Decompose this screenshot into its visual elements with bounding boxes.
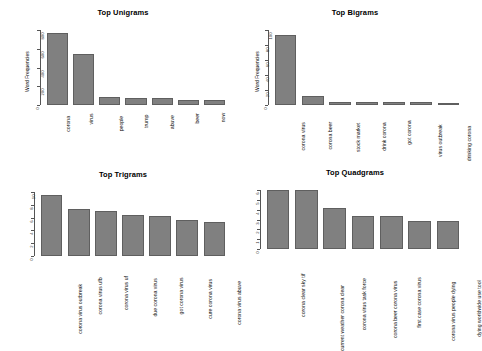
category-label: trump <box>143 115 149 128</box>
category-label: corona beer <box>327 122 333 150</box>
y-tick-trigrams-2 <box>31 230 34 231</box>
y-tick-label-quadgrams-5: 5 <box>255 202 260 204</box>
category-label: beer <box>194 113 200 123</box>
y-tick-unigrams-3 <box>37 49 40 50</box>
y-tick-trigrams-5 <box>31 192 34 193</box>
category-label: corona virus <box>300 122 306 150</box>
y-tick-trigrams-3 <box>31 218 34 219</box>
y-tick-quadgrams-3 <box>257 220 260 221</box>
category-label: drinking corona <box>466 126 472 161</box>
y-tick-label-quadgrams-0: 0 <box>255 252 260 254</box>
category-label: corona virus outbreak <box>77 284 83 334</box>
category-label: got corona <box>406 120 412 145</box>
y-tick-bigrams-4 <box>265 45 268 46</box>
category-label: due corona virus <box>152 278 158 316</box>
category-label: corona virus task force <box>361 278 367 330</box>
y-tick-label-quadgrams-6: 6 <box>255 193 260 195</box>
bar <box>149 216 171 256</box>
y-tick-unigrams-4 <box>37 30 40 31</box>
category-label: got corona virus <box>179 277 185 314</box>
bar <box>408 221 431 249</box>
y-tick-quadgrams-1 <box>257 239 260 240</box>
bar <box>380 216 403 249</box>
bar <box>99 97 120 105</box>
category-label: corona clear sky tif <box>300 274 306 317</box>
category-label: drink corona <box>381 122 387 151</box>
category-label: corona virus people dying <box>449 282 455 341</box>
y-tick-trigrams-0 <box>31 256 34 257</box>
category-label: first case corona virus <box>417 277 423 327</box>
y-tick-quadgrams-6 <box>257 190 260 191</box>
bar <box>152 98 173 105</box>
bar <box>47 33 68 105</box>
bar <box>329 102 351 105</box>
y-tick-label-trigrams-0: 0 <box>29 259 34 261</box>
category-label: corona virus uf <box>123 276 129 310</box>
bar <box>323 208 346 249</box>
y-tick-label-bigrams-0: 0 <box>263 108 268 110</box>
y-tick-label-bigrams-5: 100 <box>268 33 273 40</box>
category-label: abuve <box>169 115 175 129</box>
chart-panel-quadgrams: Top Quadgrams0123456corona clear sky tif… <box>240 178 470 348</box>
bar <box>295 190 318 249</box>
y-tick-label-unigrams-0: 0 <box>35 108 40 110</box>
y-tick-label-trigrams-4: 8 <box>29 207 34 209</box>
bar <box>356 102 378 105</box>
category-label: cure corona virus <box>207 279 213 319</box>
chart-title-unigrams: Top Unigrams <box>10 8 236 17</box>
bar <box>204 100 225 105</box>
y-tick-label-unigrams-2: 400 <box>40 70 45 77</box>
bar <box>41 195 63 256</box>
y-tick-bigrams-2 <box>265 75 268 76</box>
y-tick-bigrams-1 <box>265 90 268 91</box>
category-label: stock market <box>355 123 361 152</box>
y-tick-label-bigrams-1: 20 <box>265 93 270 98</box>
bar <box>267 190 290 249</box>
chart-panel-trigrams: Top Trigrams0246810corona virus outbreak… <box>10 178 236 348</box>
chart-panel-bigrams: Top BigramsWord Frequencies020406080100c… <box>240 8 470 174</box>
y-tick-label-quadgrams-1: 1 <box>255 242 260 244</box>
bar <box>437 221 460 249</box>
bar <box>204 222 226 256</box>
bar <box>275 35 297 105</box>
y-axis-label-bigrams: Word Frequencies <box>254 51 260 92</box>
y-tick-label-bigrams-4: 80 <box>265 48 270 53</box>
bar <box>302 96 324 105</box>
y-axis-label-unigrams: Word Frequencies <box>24 51 30 92</box>
category-label: people <box>117 116 123 132</box>
category-label: current weather corona clear <box>339 285 345 351</box>
bar <box>178 100 199 105</box>
category-label: virus <box>89 113 95 124</box>
category-label: dying worldwide use tool <box>476 280 482 337</box>
y-tick-quadgrams-4 <box>257 210 260 211</box>
y-tick-trigrams-4 <box>31 205 34 206</box>
bar <box>410 102 432 105</box>
y-axis-line-trigrams <box>34 192 35 256</box>
y-tick-label-quadgrams-2: 2 <box>255 232 260 234</box>
bar <box>95 211 117 256</box>
y-tick-quadgrams-0 <box>257 249 260 250</box>
y-tick-unigrams-2 <box>37 68 40 69</box>
chart-panel-unigrams: Top UnigramsWord Frequencies020040060080… <box>10 8 236 174</box>
chart-title-bigrams: Top Bigrams <box>240 8 470 17</box>
chart-title-trigrams: Top Trigrams <box>10 170 236 179</box>
bar <box>383 102 405 105</box>
bar <box>68 209 90 256</box>
y-tick-bigrams-0 <box>265 105 268 106</box>
bar <box>176 220 198 256</box>
y-tick-quadgrams-2 <box>257 229 260 230</box>
chart-title-quadgrams: Top Quadgrams <box>240 168 470 177</box>
category-label: corona beer corona virus <box>392 281 398 338</box>
y-tick-unigrams-0 <box>37 105 40 106</box>
y-tick-label-unigrams-3: 600 <box>40 51 45 58</box>
category-label: corona virus ufb <box>97 277 103 314</box>
y-tick-bigrams-3 <box>265 60 268 61</box>
y-axis-line-quadgrams <box>260 190 261 249</box>
y-tick-quadgrams-5 <box>257 200 260 201</box>
y-tick-label-quadgrams-3: 3 <box>255 222 260 224</box>
y-tick-label-trigrams-1: 2 <box>29 246 34 248</box>
bar <box>73 54 94 105</box>
y-tick-label-unigrams-1: 200 <box>40 89 45 96</box>
bar <box>122 215 144 256</box>
